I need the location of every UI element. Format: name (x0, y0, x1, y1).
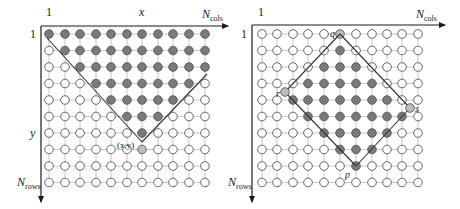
point-r-node (281, 88, 290, 97)
empty-node (289, 30, 298, 39)
empty-node (304, 145, 313, 154)
empty-node (383, 162, 392, 171)
empty-node (154, 145, 163, 154)
empty-node (201, 162, 210, 171)
empty-node (61, 96, 70, 105)
point-q-label: q (330, 28, 335, 39)
left-col-start-label: 1 (46, 5, 52, 19)
empty-node (414, 79, 423, 88)
empty-node (76, 79, 85, 88)
empty-node (185, 96, 194, 105)
empty-node (368, 30, 377, 39)
filled-node (107, 63, 116, 72)
filled-node (76, 30, 85, 39)
empty-node (45, 112, 54, 121)
left-row-start-label: 1 (30, 27, 36, 41)
filled-node (383, 96, 392, 105)
empty-node (383, 178, 392, 187)
empty-node (92, 129, 101, 138)
filled-node (201, 46, 210, 55)
filled-node (138, 129, 147, 138)
filled-node (368, 79, 377, 88)
filled-node (92, 79, 101, 88)
empty-node (45, 46, 54, 55)
filled-node (107, 79, 116, 88)
empty-node (258, 162, 267, 171)
right-nrows-sub: rows (236, 182, 252, 191)
filled-node (368, 112, 377, 121)
empty-node (201, 79, 210, 88)
left-ncols-label: Ncols (201, 7, 223, 23)
empty-node (169, 145, 178, 154)
filled-node (352, 112, 361, 121)
empty-node (76, 178, 85, 187)
empty-node (201, 145, 210, 154)
empty-node (107, 129, 116, 138)
empty-node (368, 178, 377, 187)
empty-node (414, 162, 423, 171)
empty-node (414, 145, 423, 154)
right-grid-lines (262, 34, 418, 183)
empty-node (123, 162, 132, 171)
point-p-label: p (344, 169, 350, 180)
empty-node (258, 30, 267, 39)
empty-node (304, 30, 313, 39)
empty-node (45, 129, 54, 138)
empty-node (289, 63, 298, 72)
empty-node (304, 46, 313, 55)
filled-node (352, 63, 361, 72)
empty-node (368, 162, 377, 171)
empty-node (398, 178, 407, 187)
empty-node (76, 129, 85, 138)
empty-node (258, 79, 267, 88)
empty-node (258, 46, 267, 55)
filled-node (138, 112, 147, 121)
filled-node (154, 30, 163, 39)
empty-node (201, 178, 210, 187)
left-nrows-label: Nrows (16, 175, 41, 191)
empty-node (45, 63, 54, 72)
filled-node (154, 96, 163, 105)
empty-node (320, 162, 329, 171)
empty-node (352, 178, 361, 187)
empty-node (92, 162, 101, 171)
empty-node (154, 178, 163, 187)
empty-node (398, 162, 407, 171)
empty-node (185, 112, 194, 121)
filled-node (185, 63, 194, 72)
empty-node (45, 178, 54, 187)
filled-node (368, 96, 377, 105)
filled-node (169, 79, 178, 88)
right-col-start-label: 1 (258, 5, 264, 19)
empty-node (61, 112, 70, 121)
empty-node (201, 96, 210, 105)
empty-node (289, 145, 298, 154)
empty-node (398, 145, 407, 154)
filled-node (336, 63, 345, 72)
empty-node (383, 63, 392, 72)
empty-node (289, 162, 298, 171)
empty-node (414, 30, 423, 39)
filled-node (383, 112, 392, 121)
empty-node (398, 46, 407, 55)
left-grid-lines (49, 34, 205, 183)
filled-node (123, 79, 132, 88)
filled-node (320, 112, 329, 121)
filled-node (169, 46, 178, 55)
empty-node (61, 79, 70, 88)
filled-node (304, 96, 313, 105)
empty-node (169, 162, 178, 171)
empty-node (304, 129, 313, 138)
empty-node (107, 145, 116, 154)
filled-node (107, 46, 116, 55)
filled-node (201, 30, 210, 39)
empty-node (320, 178, 329, 187)
empty-node (273, 46, 282, 55)
empty-node (289, 178, 298, 187)
empty-node (107, 112, 116, 121)
filled-node (123, 30, 132, 39)
empty-node (258, 96, 267, 105)
empty-node (258, 129, 267, 138)
filled-node (92, 30, 101, 39)
filled-node (138, 96, 147, 105)
